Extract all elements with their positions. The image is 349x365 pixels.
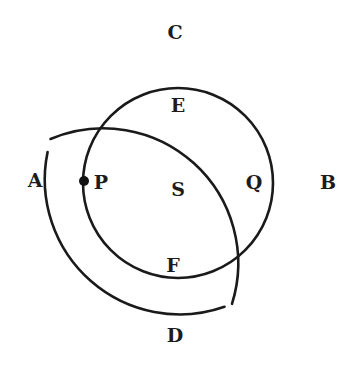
label-a: A xyxy=(27,169,43,191)
label-s: S xyxy=(171,178,185,200)
point-p-marker xyxy=(79,176,89,186)
outer-circle-arc-left xyxy=(45,152,225,314)
outer-circle-arc-right xyxy=(51,128,239,304)
label-b: B xyxy=(320,171,336,193)
label-q: Q xyxy=(246,171,263,193)
concentric-circles-diagram: C E A P S Q B F D xyxy=(0,0,349,365)
label-d: D xyxy=(167,324,183,346)
label-p: P xyxy=(94,171,108,193)
label-c: C xyxy=(167,21,182,43)
label-e: E xyxy=(171,94,185,116)
label-f: F xyxy=(166,254,180,276)
